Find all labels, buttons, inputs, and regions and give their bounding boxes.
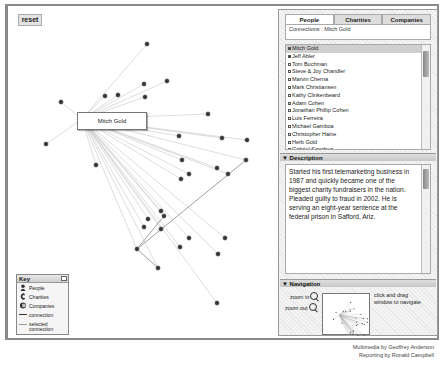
description-text: Started his first telemarketing business… bbox=[289, 168, 409, 220]
description-header[interactable]: ▼ Description bbox=[280, 153, 436, 161]
checkbox-icon[interactable] bbox=[288, 63, 291, 66]
graph-node[interactable] bbox=[162, 214, 166, 218]
checkbox-icon[interactable] bbox=[288, 133, 291, 136]
graph-node[interactable] bbox=[142, 82, 146, 86]
graph-node[interactable] bbox=[59, 100, 63, 104]
charities-icon bbox=[19, 293, 27, 300]
graph-node[interactable] bbox=[103, 94, 107, 98]
checkbox-icon[interactable] bbox=[288, 141, 291, 144]
graph-node[interactable] bbox=[135, 247, 139, 251]
tab-bar: People Charities Companies bbox=[285, 14, 431, 24]
list-item[interactable]: Gabriel Sanchez bbox=[286, 146, 430, 150]
collapse-triangle-icon: ▼ bbox=[282, 155, 290, 161]
graph-node[interactable] bbox=[215, 301, 219, 305]
graph-node[interactable] bbox=[215, 166, 219, 170]
zoom-in-button[interactable]: zoom in bbox=[290, 292, 319, 301]
key-title-text: Key bbox=[19, 276, 30, 282]
graph-node[interactable] bbox=[178, 245, 182, 249]
key-label: Companies bbox=[29, 303, 54, 309]
graph-node[interactable] bbox=[146, 217, 150, 221]
list-item[interactable]: Mitch Gold bbox=[286, 45, 430, 53]
description-box: Started his first telemarketing business… bbox=[285, 164, 431, 274]
key-item-connection: connection bbox=[17, 310, 68, 319]
graph-frame: reset Mitch Gold Key People Charities Co… bbox=[5, 4, 439, 340]
checkbox-icon[interactable] bbox=[288, 78, 291, 81]
sidebar-panel: People Charities Companies Connections :… bbox=[278, 9, 438, 336]
zoom-out-button[interactable]: zoom out bbox=[285, 303, 318, 312]
people-icon bbox=[19, 284, 27, 291]
graph-node[interactable] bbox=[159, 227, 163, 231]
checkbox-icon[interactable] bbox=[288, 70, 291, 73]
people-list[interactable]: Mitch GoldJeff AblerTom BuchmanSteve & J… bbox=[285, 44, 431, 150]
checkbox-icon[interactable] bbox=[288, 55, 291, 58]
list-scrollbar[interactable] bbox=[421, 45, 430, 149]
graph-node[interactable] bbox=[226, 172, 230, 176]
selected-node-label: Mitch Gold bbox=[77, 112, 147, 130]
list-item[interactable]: Tom Buchman bbox=[286, 61, 430, 69]
graph-node[interactable] bbox=[216, 252, 220, 256]
key-label: People bbox=[29, 285, 45, 291]
graph-node[interactable] bbox=[94, 163, 98, 167]
graph-node[interactable] bbox=[244, 158, 248, 162]
graph-node[interactable] bbox=[116, 93, 120, 97]
zoom-in-icon[interactable] bbox=[310, 292, 319, 301]
list-item[interactable]: Marvin Cherna bbox=[286, 76, 430, 84]
graph-node[interactable] bbox=[187, 172, 191, 176]
list-item[interactable]: Jeff Abler bbox=[286, 53, 430, 61]
list-item[interactable]: Adam Cohen bbox=[286, 100, 430, 108]
list-item[interactable]: Michael Gamboa bbox=[286, 123, 430, 131]
navigation-header[interactable]: ▼ Navigation bbox=[280, 279, 436, 287]
list-item-label: Herb Gold bbox=[292, 139, 317, 145]
list-item[interactable]: Luis Ferreira bbox=[286, 115, 430, 123]
collapse-triangle-icon: ▼ bbox=[282, 281, 290, 287]
list-item-label: Steve & Joy Chandler bbox=[292, 68, 345, 74]
checkbox-icon[interactable] bbox=[288, 94, 291, 97]
description-scrollbar[interactable] bbox=[421, 165, 430, 273]
network-canvas[interactable]: reset Mitch Gold Key People Charities Co… bbox=[8, 6, 274, 336]
graph-node[interactable] bbox=[220, 136, 224, 140]
graph-node[interactable] bbox=[145, 42, 149, 46]
checkbox-icon[interactable] bbox=[288, 47, 291, 50]
list-item-label: Jeff Abler bbox=[292, 53, 315, 59]
tab-companies[interactable]: Companies bbox=[382, 14, 431, 24]
graph-node[interactable] bbox=[165, 79, 169, 83]
scrollbar-thumb[interactable] bbox=[423, 51, 429, 77]
list-item[interactable]: Christopher Haine bbox=[286, 131, 430, 139]
companies-icon bbox=[19, 302, 27, 309]
key-label: connection bbox=[29, 312, 53, 318]
graph-node[interactable] bbox=[159, 209, 163, 213]
zoom-out-icon[interactable] bbox=[309, 303, 318, 312]
checkbox-icon[interactable] bbox=[288, 117, 291, 120]
checkbox-icon[interactable] bbox=[288, 102, 291, 105]
connection-line-icon bbox=[19, 314, 27, 315]
graph-node[interactable] bbox=[206, 112, 210, 116]
minimap-window[interactable] bbox=[322, 293, 370, 335]
list-item-label: Gabriel Sanchez bbox=[292, 146, 333, 150]
scrollbar-thumb[interactable] bbox=[423, 169, 429, 189]
checkbox-icon[interactable] bbox=[288, 109, 291, 112]
graph-node[interactable] bbox=[44, 142, 48, 146]
graph-node[interactable] bbox=[177, 134, 181, 138]
graph-node[interactable] bbox=[245, 138, 249, 142]
reporting-credit: Reporting by Ronald Campbell bbox=[353, 351, 434, 359]
graph-node[interactable] bbox=[223, 236, 227, 240]
graph-node[interactable] bbox=[187, 236, 191, 240]
checkbox-icon[interactable] bbox=[288, 148, 291, 150]
list-item[interactable]: Steve & Joy Chandler bbox=[286, 68, 430, 76]
graph-node[interactable] bbox=[143, 95, 147, 99]
checkbox-icon[interactable] bbox=[288, 125, 291, 128]
graph-node[interactable] bbox=[180, 158, 184, 162]
tab-charities[interactable]: Charities bbox=[334, 14, 383, 24]
list-item[interactable]: Jonathan Phillip Cohen bbox=[286, 107, 430, 115]
graph-node[interactable] bbox=[142, 225, 146, 229]
tab-people[interactable]: People bbox=[285, 14, 334, 24]
minimap-graph bbox=[323, 294, 371, 336]
list-item[interactable]: Kathy Clinkenbeard bbox=[286, 92, 430, 100]
list-item[interactable]: Mark Christiansen bbox=[286, 84, 430, 92]
reset-button[interactable]: reset bbox=[18, 14, 42, 26]
checkbox-icon[interactable] bbox=[288, 86, 291, 89]
graph-node[interactable] bbox=[179, 177, 183, 181]
list-item[interactable]: Herb Gold bbox=[286, 139, 430, 147]
graph-node[interactable] bbox=[156, 266, 160, 270]
minimize-icon[interactable] bbox=[61, 276, 67, 281]
